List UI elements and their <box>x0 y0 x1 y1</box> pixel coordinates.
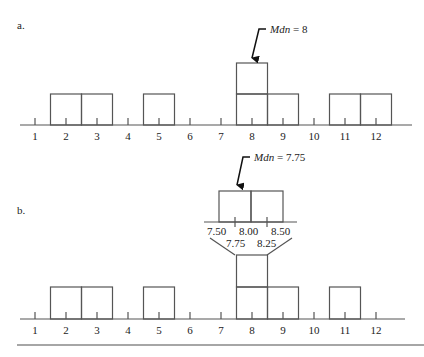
axis-tick-label: 6 <box>187 324 193 336</box>
axis-tick-label: 11 <box>340 130 351 142</box>
panel-b-median-annotation: Mdn = 7.75 <box>253 151 306 163</box>
axis-tick-label: 7 <box>218 130 224 142</box>
axis-tick-label: 9 <box>280 324 286 336</box>
axis-tick-label: 4 <box>125 130 131 142</box>
panel-a-median-arrow-icon <box>252 29 266 58</box>
axis-tick-label: 4 <box>125 324 131 336</box>
panel-b-zoom-inset <box>204 191 297 255</box>
median-value: = 8 <box>293 23 308 35</box>
axis-tick-label: 12 <box>371 130 382 142</box>
median-value: = 7.75 <box>277 151 306 163</box>
axis-tick-label: 10 <box>309 130 321 142</box>
panel-b-median-arrow-icon <box>237 157 250 185</box>
inset-upper-label-3: 8.50 <box>271 225 291 237</box>
axis-tick-label: 5 <box>156 130 162 142</box>
score-box <box>237 255 268 287</box>
panel-b-label: b. <box>17 204 26 216</box>
panel-a-median-annotation: Mdn = 8 <box>269 23 308 35</box>
inset-upper-label-2: 8.00 <box>239 225 259 237</box>
axis-tick-label: 2 <box>63 324 69 336</box>
median-symbol: Mdn <box>269 23 291 35</box>
axis-tick-label: 2 <box>63 130 69 142</box>
axis-tick-label: 1 <box>32 324 38 336</box>
inset-upper-label-1: 7.50 <box>207 225 227 237</box>
axis-tick-label: 12 <box>371 324 382 336</box>
axis-tick-label: 8 <box>249 324 255 336</box>
inset-lower-label-1: 7.75 <box>226 237 246 249</box>
axis-tick-label: 3 <box>94 324 100 336</box>
axis-tick-label: 7 <box>218 324 224 336</box>
axis-tick-label: 1 <box>32 130 38 142</box>
axis-tick-label: 11 <box>340 324 351 336</box>
panel-a-boxes <box>51 63 392 125</box>
axis-tick-label: 6 <box>187 130 193 142</box>
axis-tick-label: 9 <box>280 130 286 142</box>
axis-tick-label: 3 <box>94 130 100 142</box>
axis-tick-label: 8 <box>249 130 255 142</box>
inset-lower-label-2: 8.25 <box>257 237 277 249</box>
axis-tick-label: 10 <box>309 324 321 336</box>
score-box <box>237 63 268 94</box>
panel-b-boxes <box>51 255 361 319</box>
panel-a-label: a. <box>17 19 25 31</box>
median-diagram: a. 123456789101112 Mdn = 8 b. 1234567891… <box>0 0 424 357</box>
axis-tick-label: 5 <box>156 324 162 336</box>
median-symbol: Mdn <box>253 151 275 163</box>
